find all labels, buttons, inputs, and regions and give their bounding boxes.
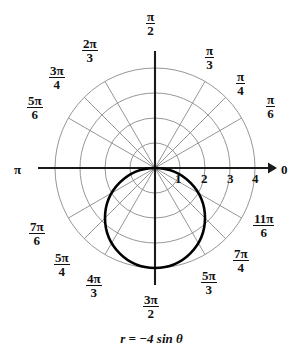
radial-tick-label-4: 4 bbox=[252, 172, 259, 185]
fraction-denominator: 4 bbox=[236, 84, 245, 97]
angle-label-2pi-3: 2π 3 bbox=[82, 37, 98, 65]
fraction-numerator: π bbox=[236, 70, 245, 84]
fraction-denominator: 4 bbox=[54, 265, 70, 278]
fraction: 2π 3 bbox=[82, 37, 98, 65]
angle-label-3pi-2: 3π 2 bbox=[143, 293, 159, 321]
fraction-denominator: 3 bbox=[82, 51, 98, 64]
angle-label-4pi-3: 4π 3 bbox=[86, 272, 102, 300]
fraction-numerator: 5π bbox=[54, 251, 70, 265]
fraction-numerator: 4π bbox=[86, 272, 102, 286]
angle-label-3pi-4: 3π 4 bbox=[49, 64, 65, 92]
caption-lhs: r = −4 sin θ bbox=[120, 331, 183, 346]
fraction: 5π 6 bbox=[27, 94, 43, 122]
fraction: 4π 3 bbox=[86, 272, 102, 300]
fraction: 7π 6 bbox=[29, 220, 45, 248]
fraction-numerator: 3π bbox=[143, 293, 159, 307]
fraction-denominator: 6 bbox=[253, 226, 274, 239]
angle-label-pi-3: π 3 bbox=[205, 44, 214, 72]
fraction-denominator: 6 bbox=[266, 107, 275, 120]
radial-tick-label-3: 3 bbox=[227, 172, 234, 185]
fraction-denominator: 3 bbox=[201, 283, 217, 296]
fraction-denominator: 6 bbox=[27, 108, 43, 121]
angle-text-0: 0 bbox=[281, 162, 288, 177]
fraction: 11π 6 bbox=[253, 212, 274, 240]
fraction: 3π 2 bbox=[143, 293, 159, 321]
polar-plot-figure: 0 π 6 π 4 π 3 π 2 2π 3 3π 4 bbox=[0, 0, 303, 354]
fraction-numerator: π bbox=[205, 44, 214, 58]
polar-axis-arrowhead bbox=[268, 163, 277, 174]
fraction-denominator: 2 bbox=[146, 24, 155, 37]
fraction: π 4 bbox=[236, 70, 245, 98]
angle-label-0: 0 bbox=[281, 161, 288, 177]
angle-label-5pi-4: 5π 4 bbox=[54, 251, 70, 279]
fraction-denominator: 6 bbox=[29, 234, 45, 247]
fraction: 5π 4 bbox=[54, 251, 70, 279]
angle-label-5pi-6: 5π 6 bbox=[27, 94, 43, 122]
angle-label-pi-6: π 6 bbox=[266, 93, 275, 121]
fraction: π 6 bbox=[266, 93, 275, 121]
angle-label-11pi-6: 11π 6 bbox=[253, 212, 274, 240]
fraction-numerator: 2π bbox=[82, 37, 98, 51]
fraction: π 3 bbox=[205, 44, 214, 72]
angle-label-5pi-3: 5π 3 bbox=[201, 269, 217, 297]
fraction: π 2 bbox=[146, 10, 155, 38]
angle-label-pi-2: π 2 bbox=[146, 10, 155, 38]
fraction-numerator: 11π bbox=[253, 212, 274, 226]
angle-label-7pi-6: 7π 6 bbox=[29, 220, 45, 248]
fraction-numerator: 5π bbox=[27, 94, 43, 108]
fraction-numerator: 7π bbox=[29, 220, 45, 234]
fraction-numerator: 3π bbox=[49, 64, 65, 78]
angle-label-pi-4: π 4 bbox=[236, 70, 245, 98]
angle-label-7pi-4: 7π 4 bbox=[233, 247, 249, 275]
fraction: 3π 4 bbox=[49, 64, 65, 92]
fraction-denominator: 3 bbox=[205, 58, 214, 71]
fraction: 5π 3 bbox=[201, 269, 217, 297]
fraction-numerator: π bbox=[146, 10, 155, 24]
fraction-numerator: π bbox=[266, 93, 275, 107]
fraction-denominator: 2 bbox=[143, 307, 159, 320]
angle-label-pi: π bbox=[14, 161, 21, 177]
fraction-numerator: 5π bbox=[201, 269, 217, 283]
figure-caption: r = −4 sin θ bbox=[0, 331, 303, 347]
radial-tick-label-2: 2 bbox=[201, 172, 208, 185]
fraction-denominator: 4 bbox=[49, 78, 65, 91]
angle-text-pi: π bbox=[14, 162, 21, 177]
fraction-denominator: 4 bbox=[233, 261, 249, 274]
radial-tick-label-1: 1 bbox=[175, 172, 182, 185]
fraction: 7π 4 bbox=[233, 247, 249, 275]
fraction-denominator: 3 bbox=[86, 286, 102, 299]
fraction-numerator: 7π bbox=[233, 247, 249, 261]
